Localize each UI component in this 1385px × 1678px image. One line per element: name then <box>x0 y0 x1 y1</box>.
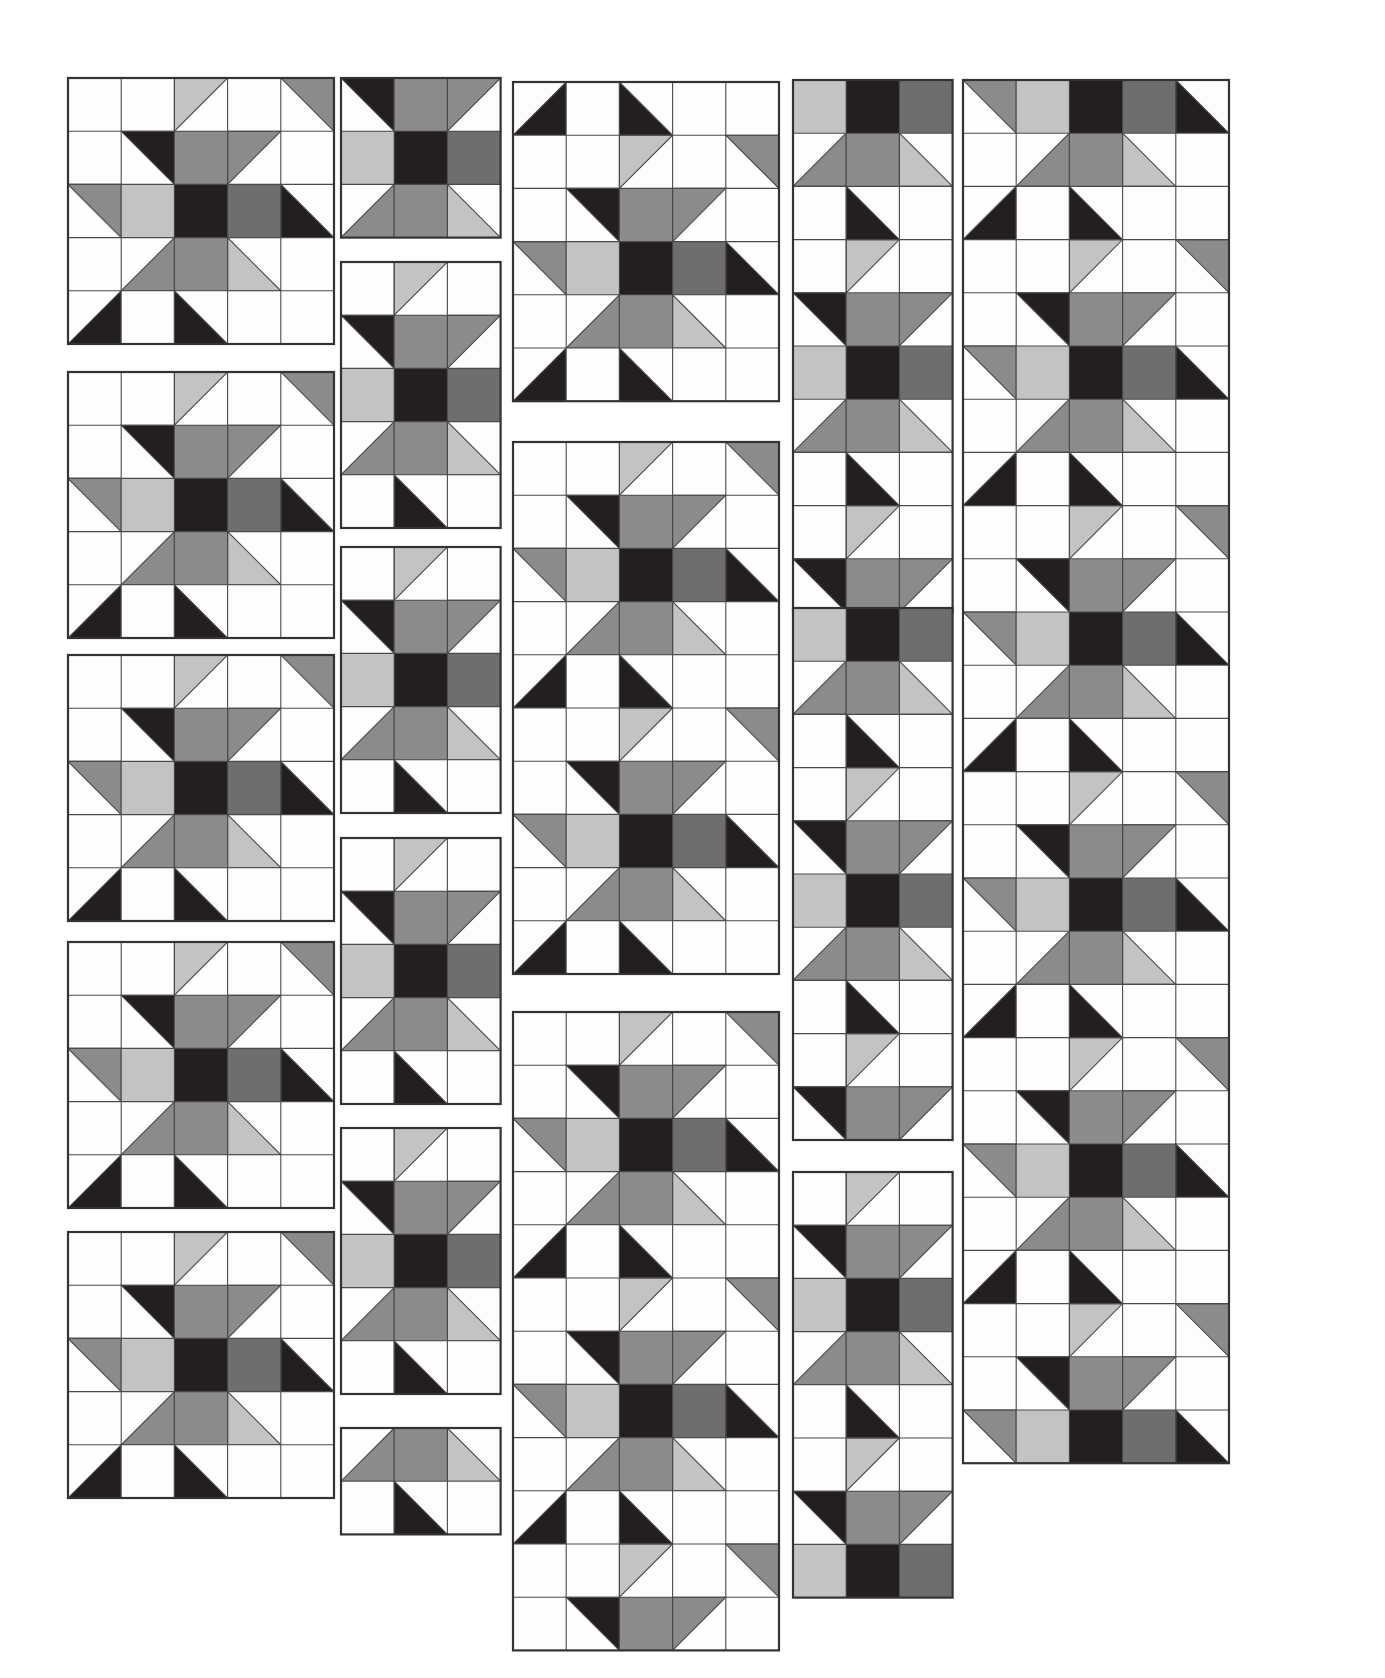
patch-white <box>341 475 394 528</box>
patch-white <box>566 708 619 761</box>
patch-white <box>281 131 334 184</box>
patch-square <box>1069 293 1122 346</box>
patch-square <box>1123 80 1176 133</box>
patch-white <box>673 82 726 135</box>
patch-white <box>281 1445 334 1498</box>
patch-white <box>1176 1357 1229 1410</box>
patch-white <box>447 1481 500 1534</box>
patch-white <box>513 1438 566 1491</box>
patch-square <box>174 1392 227 1445</box>
patch-square <box>846 821 899 874</box>
quilt-column-1 <box>68 78 334 1498</box>
patch-square <box>394 184 447 237</box>
patch-white <box>341 1341 394 1394</box>
patch-square <box>1069 612 1122 665</box>
patch-white <box>963 772 1016 825</box>
quilt-block <box>341 1428 501 1534</box>
patch-white <box>228 291 281 344</box>
patch-square <box>1123 1144 1176 1197</box>
patch-square <box>846 559 899 612</box>
quilt-block-patches <box>513 1012 779 1650</box>
patch-square <box>1069 825 1122 878</box>
patch-white <box>1176 1197 1229 1250</box>
patch-white <box>68 1232 121 1285</box>
patch-square <box>394 1288 447 1341</box>
quilt-layout-canvas <box>0 0 1385 1678</box>
patch-white <box>1016 506 1069 559</box>
patch-white <box>566 655 619 708</box>
patch-white <box>341 760 394 813</box>
patch-white <box>281 238 334 291</box>
patch-square <box>174 184 227 237</box>
patch-white <box>899 1438 952 1491</box>
patch-square <box>619 1172 672 1225</box>
patch-square <box>174 131 227 184</box>
quilt-block <box>341 1128 501 1394</box>
patch-square <box>341 131 394 184</box>
patch-white <box>68 942 121 995</box>
patch-white <box>341 1128 394 1181</box>
patch-white <box>726 1438 779 1491</box>
quilt-block <box>68 78 334 344</box>
patch-white <box>673 1012 726 1065</box>
patch-white <box>566 135 619 188</box>
patch-square <box>846 608 899 661</box>
patch-square <box>1016 346 1069 399</box>
patch-white <box>121 655 174 708</box>
patch-square <box>1069 1410 1122 1463</box>
patch-square <box>673 814 726 867</box>
patch-white <box>68 532 121 585</box>
patch-white <box>228 1155 281 1208</box>
patch-white <box>726 82 779 135</box>
patch-white <box>963 133 1016 186</box>
quilt-block <box>793 80 953 612</box>
patch-square <box>174 1338 227 1391</box>
patch-square <box>566 814 619 867</box>
patch-white <box>673 1491 726 1544</box>
patch-white <box>1176 984 1229 1037</box>
patch-white <box>1016 452 1069 505</box>
patch-white <box>513 1278 566 1331</box>
patch-white <box>1176 452 1229 505</box>
quilt-column-2 <box>341 78 501 1534</box>
quilt-block <box>68 942 334 1208</box>
patch-white <box>1176 133 1229 186</box>
patch-white <box>281 425 334 478</box>
quilt-block-patches <box>793 1172 953 1598</box>
patch-white <box>1176 559 1229 612</box>
patch-square <box>394 891 447 944</box>
patch-white <box>341 838 394 891</box>
patch-white <box>963 399 1016 452</box>
patch-square <box>447 1234 500 1287</box>
patch-square <box>174 1102 227 1155</box>
quilt-block-patches <box>341 547 501 813</box>
patch-square <box>174 761 227 814</box>
patch-white <box>566 442 619 495</box>
patch-white <box>68 1392 121 1445</box>
patch-square <box>619 295 672 348</box>
patch-white <box>68 238 121 291</box>
patch-white <box>68 995 121 1048</box>
patch-square <box>566 548 619 601</box>
patch-white <box>899 1385 952 1438</box>
patch-square <box>394 998 447 1051</box>
patch-white <box>1016 772 1069 825</box>
quilt-block <box>963 80 1229 1463</box>
patch-square <box>793 1544 846 1597</box>
patch-white <box>281 291 334 344</box>
patch-square <box>793 608 846 661</box>
patch-white <box>121 1155 174 1208</box>
patch-white <box>513 708 566 761</box>
patch-square <box>1069 80 1122 133</box>
patch-white <box>341 262 394 315</box>
quilt-block <box>68 1232 334 1498</box>
patch-white <box>566 1491 619 1544</box>
patch-white <box>513 295 566 348</box>
patch-white <box>281 708 334 761</box>
patch-square <box>846 1491 899 1544</box>
patch-square <box>1123 878 1176 931</box>
patch-white <box>68 425 121 478</box>
patch-square <box>846 1087 899 1140</box>
patch-square <box>394 131 447 184</box>
quilt-block-patches <box>513 442 779 974</box>
